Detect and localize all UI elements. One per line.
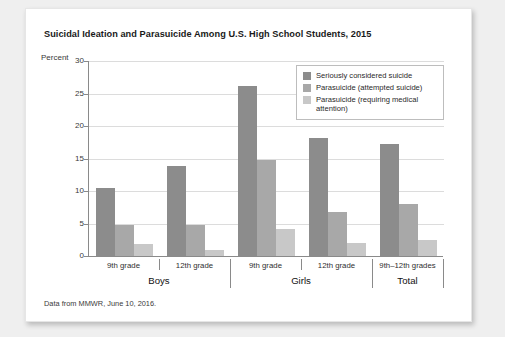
bar (205, 250, 224, 257)
bar (96, 188, 115, 256)
bar (309, 138, 328, 256)
bar (418, 240, 437, 256)
legend-swatch-icon (303, 96, 311, 104)
legend-item: Parasuicide (attempted suicide) (303, 83, 437, 92)
bar (347, 243, 366, 256)
bar (399, 204, 418, 256)
y-axis-tick-label: 20 (62, 121, 84, 130)
y-axis-tick-label: 15 (62, 154, 84, 163)
bar (276, 229, 295, 256)
y-axis-tick-label: 30 (62, 56, 84, 65)
x-axis-sub-label: 9th grade (88, 261, 159, 270)
bar (115, 225, 134, 256)
legend-label: Parasuicide (requiring medical attention… (316, 95, 437, 113)
bar (328, 212, 347, 256)
bar (167, 166, 186, 256)
x-axis-group-label: Total (372, 275, 443, 286)
bar (134, 244, 153, 256)
legend-label: Parasuicide (attempted suicide) (316, 83, 422, 92)
x-axis-sub-label: 12th grade (159, 261, 230, 270)
y-axis-tick-label: 5 (62, 219, 84, 228)
x-axis-sub-label: 9th grade (230, 261, 301, 270)
y-axis-tick-label: 25 (62, 89, 84, 98)
source-note: Data from MMWR, June 10, 2016. (44, 299, 156, 308)
bar (186, 225, 205, 256)
x-axis-sub-label: 12th grade (301, 261, 372, 270)
x-axis-group-label: Boys (88, 275, 230, 286)
y-axis-ticks: 051015202530 (60, 61, 84, 257)
legend-item: Parasuicide (requiring medical attention… (303, 95, 437, 113)
legend-item: Seriously considered suicide (303, 71, 437, 80)
bar (257, 160, 276, 256)
x-axis-sub-label: 9th–12th grades (372, 261, 443, 270)
axis-separator (159, 259, 160, 270)
x-axis-labels: 9th grade12th grade9th grade12th grade9t… (88, 259, 444, 303)
page-title: Suicidal Ideation and Parasuicide Among … (44, 29, 454, 40)
legend-swatch-icon (303, 72, 311, 80)
axis-group-separator (443, 259, 444, 288)
legend-label: Seriously considered suicide (316, 71, 412, 80)
y-axis-tick-label: 10 (62, 186, 84, 195)
chart-legend: Seriously considered suicide Parasuicide… (296, 65, 444, 120)
axis-separator (301, 259, 302, 270)
y-axis-tick-label: 0 (62, 251, 84, 260)
legend-swatch-icon (303, 84, 311, 92)
x-axis-group-label: Girls (230, 275, 372, 286)
bar (380, 144, 399, 256)
figure-card: Suicidal Ideation and Parasuicide Among … (25, 8, 472, 322)
bar (238, 86, 257, 256)
